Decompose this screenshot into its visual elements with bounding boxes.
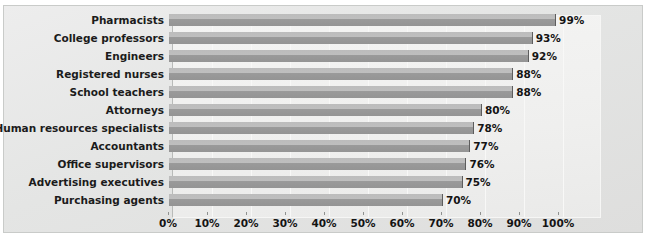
bar — [169, 104, 482, 116]
bar-row: College professors93% — [0, 29, 646, 47]
bar — [169, 68, 513, 80]
bar-value-label: 88% — [512, 66, 541, 82]
bar-row: Engineers92% — [0, 47, 646, 65]
category-label: School teachers — [70, 83, 168, 101]
x-tick-mark — [480, 212, 481, 215]
x-tick-label: 10% — [194, 217, 219, 229]
x-tick-label: 60% — [389, 217, 414, 229]
bar — [169, 14, 556, 26]
category-label: Purchasing agents — [54, 191, 168, 209]
x-tick-label: 0% — [159, 217, 177, 229]
category-label: Accountants — [90, 137, 168, 155]
x-tick-mark — [324, 212, 325, 215]
x-tick-label: 100% — [542, 217, 574, 229]
bar-value-label: 75% — [462, 174, 491, 190]
bar — [169, 140, 470, 152]
category-label: College professors — [54, 29, 168, 47]
x-tick-label: 80% — [467, 217, 492, 229]
bar — [169, 176, 463, 188]
bar-row: Accountants77% — [0, 137, 646, 155]
x-tick-mark — [285, 212, 286, 215]
bar — [169, 122, 474, 134]
category-label: Office supervisors — [57, 155, 168, 173]
bar-row: Purchasing agents70% — [0, 191, 646, 209]
bar-row: Advertising executives75% — [0, 173, 646, 191]
bar-row: Attorneys80% — [0, 101, 646, 119]
x-tick-label: 20% — [233, 217, 258, 229]
bar — [169, 158, 466, 170]
x-tick-mark — [168, 212, 169, 215]
bar-value-label: 78% — [473, 120, 502, 136]
x-tick-mark — [441, 212, 442, 215]
bar — [169, 32, 533, 44]
bar — [169, 194, 443, 206]
x-tick-label: 40% — [311, 217, 336, 229]
category-label: Attorneys — [106, 101, 168, 119]
x-tick-mark — [519, 212, 520, 215]
category-label: Advertising executives — [29, 173, 168, 191]
bar-value-label: 70% — [442, 192, 471, 208]
bar — [169, 86, 513, 98]
bar-value-label: 92% — [528, 48, 557, 64]
category-label: Registered nurses — [56, 65, 168, 83]
bar-row: Human resources specialists78% — [0, 119, 646, 137]
bar-row: School teachers88% — [0, 83, 646, 101]
x-tick-mark — [558, 212, 559, 215]
x-tick-mark — [363, 212, 364, 215]
x-tick-mark — [207, 212, 208, 215]
bar-row: Registered nurses88% — [0, 65, 646, 83]
bar-row: Pharmacists99% — [0, 11, 646, 29]
x-tick-mark — [246, 212, 247, 215]
bar-chart-screenshot: Pharmacists99%College professors93%Engin… — [0, 0, 646, 240]
bar-value-label: 76% — [465, 156, 494, 172]
x-axis: 0%10%20%30%40%50%60%70%80%90%100% — [0, 212, 646, 234]
x-tick-label: 30% — [272, 217, 297, 229]
bar-value-label: 80% — [481, 102, 510, 118]
bar-value-label: 99% — [555, 12, 584, 28]
bar-row: Office supervisors76% — [0, 155, 646, 173]
bar-value-label: 77% — [469, 138, 498, 154]
category-label: Pharmacists — [91, 11, 168, 29]
x-tick-label: 90% — [506, 217, 531, 229]
bar — [169, 50, 529, 62]
category-label: Engineers — [105, 47, 168, 65]
x-tick-label: 50% — [350, 217, 375, 229]
x-tick-mark — [402, 212, 403, 215]
x-tick-label: 70% — [428, 217, 453, 229]
bar-value-label: 93% — [532, 30, 561, 46]
bar-rows: Pharmacists99%College professors93%Engin… — [0, 0, 646, 240]
bar-value-label: 88% — [512, 84, 541, 100]
category-label: Human resources specialists — [0, 119, 168, 137]
